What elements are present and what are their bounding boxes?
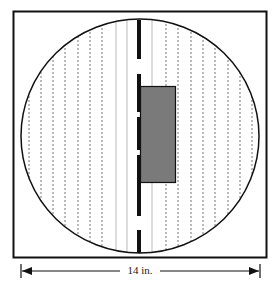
- dimension-label: 14 in.: [120, 263, 160, 277]
- gray-rectangle: [141, 87, 176, 183]
- diagram-canvas: [0, 0, 275, 286]
